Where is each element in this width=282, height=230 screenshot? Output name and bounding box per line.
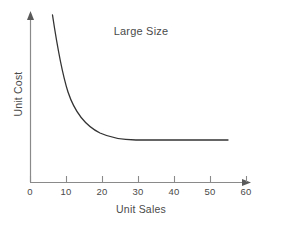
x-tick-label: 40 [159,186,189,197]
x-tick-label: 20 [87,186,117,197]
x-tick-label: 60 [231,186,261,197]
chart-container: Large Size Unit Cost Unit Sales 0 10 20 … [0,0,282,230]
x-tick-label: 0 [15,186,45,197]
x-tick-label: 50 [195,186,225,197]
x-axis-label: Unit Sales [0,203,282,215]
x-tick-label: 30 [123,186,153,197]
y-axis-arrow-icon [27,11,34,20]
x-axis-ticks [31,176,247,182]
x-tick-label: 10 [51,186,81,197]
y-axis-label: Unit Cost [12,54,24,134]
chart-title: Large Size [0,25,282,37]
